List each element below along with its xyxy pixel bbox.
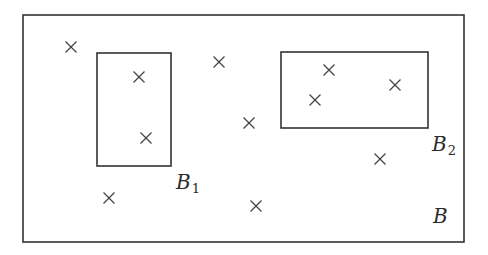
cross-marker-icon [390, 80, 401, 91]
box-diagram [0, 0, 488, 255]
cross-marker-icon [375, 154, 386, 165]
label-B2: B2 [432, 134, 456, 157]
label-B: B [433, 206, 448, 226]
cross-marker-icon [66, 42, 77, 53]
cross-marker-icon [310, 95, 321, 106]
cross-marker-icon [141, 133, 152, 144]
point-markers [66, 42, 401, 212]
cross-marker-icon [134, 72, 145, 83]
cross-marker-icon [214, 57, 225, 68]
label-B1-letter: B [176, 170, 191, 194]
label-B2-letter: B [432, 132, 447, 156]
cross-marker-icon [104, 193, 115, 204]
sub-box-B2 [281, 52, 428, 128]
label-B1-subscript: 1 [192, 181, 200, 196]
cross-marker-icon [251, 201, 262, 212]
label-B-letter: B [433, 204, 448, 228]
cross-marker-icon [244, 118, 255, 129]
label-B1: B1 [176, 172, 200, 195]
cross-marker-icon [324, 65, 335, 76]
label-B2-subscript: 2 [448, 143, 456, 158]
sub-box-B1 [97, 53, 171, 166]
